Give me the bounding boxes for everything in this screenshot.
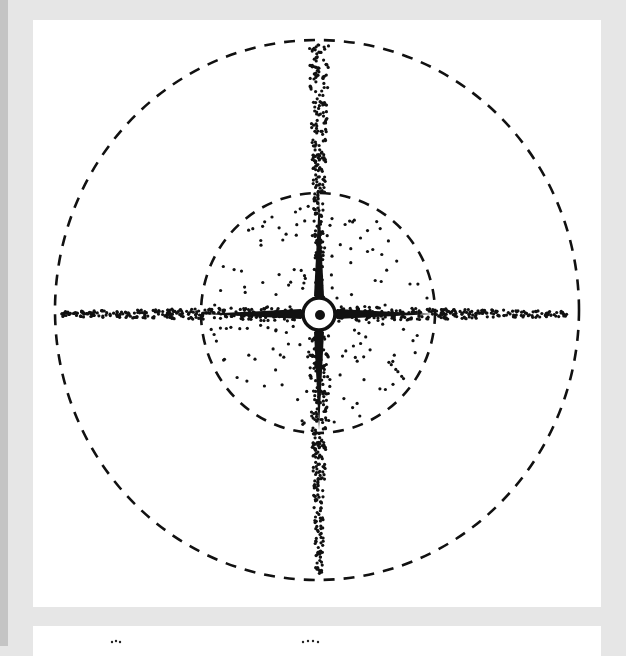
next-panel-marks <box>111 640 319 643</box>
eye-pupil <box>315 310 325 320</box>
